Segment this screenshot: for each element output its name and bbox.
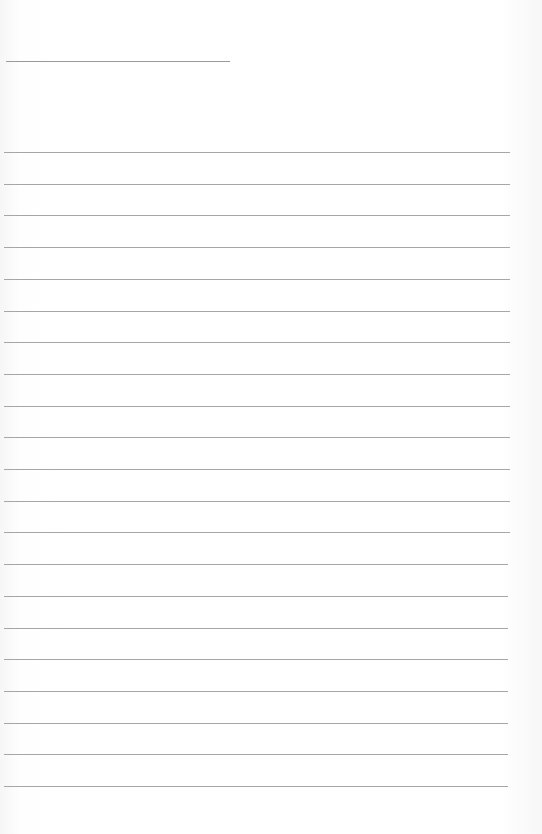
ruled-line (4, 754, 508, 755)
ruled-line (4, 247, 510, 248)
ruled-line (4, 564, 508, 565)
ruled-line (4, 279, 510, 280)
ruled-line (4, 691, 508, 692)
ruled-line (4, 374, 510, 375)
ruled-line (4, 532, 510, 533)
ruled-line (4, 342, 510, 343)
ruled-line (4, 628, 508, 629)
ruled-line (4, 469, 510, 470)
title-underline (6, 61, 230, 62)
ruled-line (4, 659, 508, 660)
ruled-line (4, 596, 508, 597)
ruled-line (4, 786, 508, 787)
ruled-line (4, 311, 510, 312)
ruled-line (4, 152, 510, 153)
ruled-line (4, 184, 510, 185)
ruled-line (4, 501, 510, 502)
ruled-line (4, 406, 510, 407)
ruled-line (4, 437, 510, 438)
lined-paper-page (0, 0, 542, 834)
ruled-line (4, 723, 508, 724)
ruled-line (4, 215, 510, 216)
